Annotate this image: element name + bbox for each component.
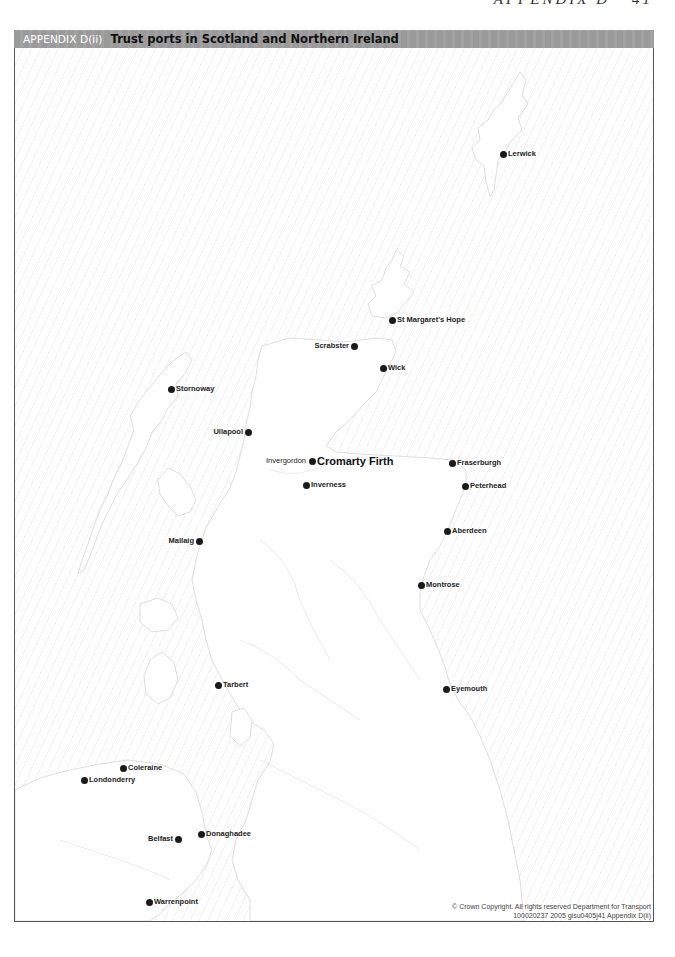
figure-title-bar: APPENDIX D(ii) Trust ports in Scotland a… bbox=[14, 30, 654, 48]
port-dot-icon bbox=[196, 538, 203, 545]
orkney-outline bbox=[368, 250, 414, 318]
port-dot-icon bbox=[146, 899, 153, 906]
figure-title: Trust ports in Scotland and Northern Ire… bbox=[111, 32, 399, 46]
port-label: Belfast bbox=[148, 834, 173, 844]
appendix-label: APPENDIX D(ii) bbox=[23, 33, 103, 45]
islay-jura-outline bbox=[144, 652, 178, 704]
port-secondary-label: Invergordon bbox=[266, 456, 306, 466]
port-dot-icon bbox=[303, 482, 310, 489]
copyright-notice: © Crown Copyright. All rights reserved D… bbox=[452, 902, 651, 920]
port-label: St Margaret's Hope bbox=[397, 315, 465, 325]
port-dot-icon bbox=[198, 831, 205, 838]
port-dot-icon bbox=[380, 365, 387, 372]
port-label: Fraserburgh bbox=[457, 458, 501, 468]
port-dot-icon bbox=[168, 386, 175, 393]
port-label: Mallaig bbox=[169, 536, 194, 546]
shetland-outline bbox=[472, 72, 528, 196]
port-dot-icon bbox=[175, 836, 182, 843]
port-label: Lerwick bbox=[508, 149, 536, 159]
port-label: Tarbert bbox=[223, 680, 248, 690]
port-label: Warrenpoint bbox=[154, 897, 198, 907]
port-label: Cromarty Firth bbox=[317, 455, 393, 468]
mull-outline bbox=[140, 598, 178, 632]
port-label: Scrabster bbox=[314, 341, 349, 351]
page-header: APPENDIX D41 bbox=[494, 0, 653, 8]
port-label: Coleraine bbox=[128, 763, 162, 773]
port-dot-icon bbox=[309, 458, 316, 465]
port-label: Ullapool bbox=[213, 427, 243, 437]
port-label: Montrose bbox=[426, 580, 460, 590]
copyright-line-2: 100020237 2005 gisu0405j41 Appendix D(ii… bbox=[452, 911, 651, 920]
port-dot-icon bbox=[81, 777, 88, 784]
port-label: Peterhead bbox=[470, 481, 506, 491]
port-dot-icon bbox=[215, 682, 222, 689]
port-dot-icon bbox=[351, 343, 358, 350]
port-dot-icon bbox=[500, 151, 507, 158]
port-label: Stornoway bbox=[176, 384, 214, 394]
port-dot-icon bbox=[443, 686, 450, 693]
running-header: APPENDIX D bbox=[494, 0, 610, 7]
copyright-line-1: © Crown Copyright. All rights reserved D… bbox=[452, 902, 651, 911]
map-canvas: LerwickSt Margaret's HopeScrabsterWickSt… bbox=[15, 48, 653, 921]
port-dot-icon bbox=[418, 582, 425, 589]
port-dot-icon bbox=[245, 429, 252, 436]
port-label: Londonderry bbox=[89, 775, 135, 785]
port-dot-icon bbox=[444, 528, 451, 535]
port-dot-icon bbox=[449, 460, 456, 467]
port-dot-icon bbox=[389, 317, 396, 324]
port-label: Aberdeen bbox=[452, 526, 487, 536]
port-label: Donaghadee bbox=[206, 829, 251, 839]
port-label: Eyemouth bbox=[451, 684, 487, 694]
port-label: Inverness bbox=[311, 480, 346, 490]
skye-outline bbox=[158, 468, 196, 516]
port-label: Wick bbox=[388, 363, 405, 373]
port-dot-icon bbox=[462, 483, 469, 490]
port-dot-icon bbox=[120, 765, 127, 772]
page-number: 41 bbox=[632, 0, 653, 7]
